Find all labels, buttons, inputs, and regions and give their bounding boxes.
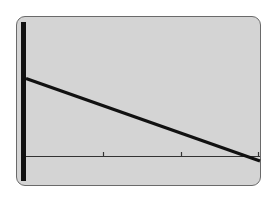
data-line (26, 79, 260, 162)
y-axis (21, 22, 26, 181)
line-graph (0, 0, 271, 202)
